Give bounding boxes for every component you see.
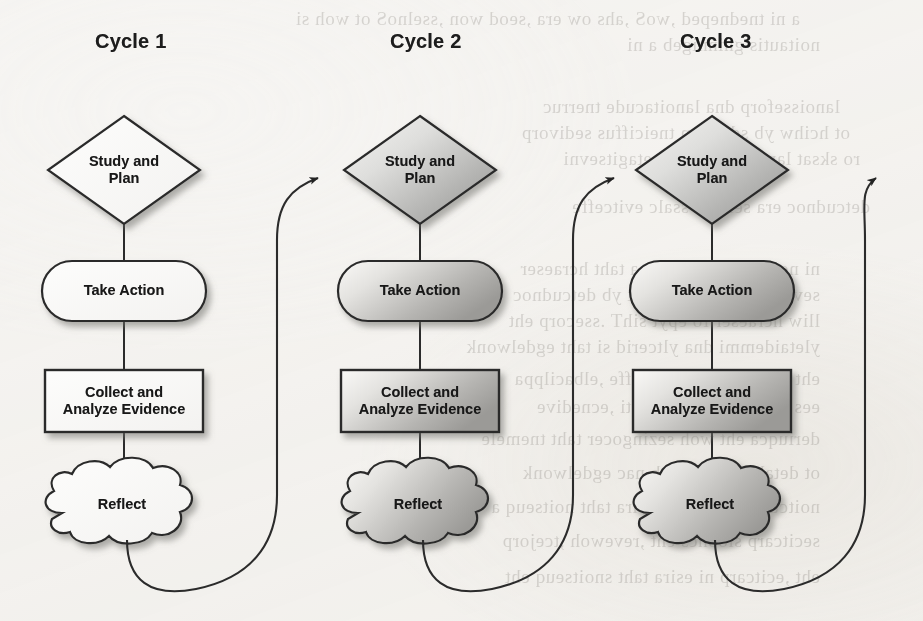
- cycle-3-group: [630, 116, 794, 544]
- node-take-action-cycle-1[interactable]: [42, 261, 206, 321]
- node-take-action-cycle-2[interactable]: [338, 261, 502, 321]
- node-reflect-cycle-1[interactable]: [46, 458, 192, 544]
- cycle-label-1: Cycle 1: [95, 30, 166, 53]
- node-collect-evidence-cycle-2[interactable]: [341, 370, 499, 432]
- node-reflect-cycle-3[interactable]: [634, 458, 780, 544]
- cycle-label-3: Cycle 3: [680, 30, 751, 53]
- node-study-and-plan-cycle-1[interactable]: [48, 116, 200, 224]
- cycle-label-2: Cycle 2: [390, 30, 461, 53]
- node-reflect-cycle-2[interactable]: [342, 458, 488, 544]
- node-study-and-plan-cycle-3[interactable]: [636, 116, 788, 224]
- action-research-cycles-diagram: [0, 0, 923, 621]
- cycle-2-group: [338, 116, 502, 544]
- scanned-page: a ni tnedneped ,woS ,ahs ow era ,seod wo…: [0, 0, 923, 621]
- node-take-action-cycle-3[interactable]: [630, 261, 794, 321]
- node-collect-evidence-cycle-1[interactable]: [45, 370, 203, 432]
- cycle-1-group: [42, 116, 206, 544]
- node-collect-evidence-cycle-3[interactable]: [633, 370, 791, 432]
- node-study-and-plan-cycle-2[interactable]: [344, 116, 496, 224]
